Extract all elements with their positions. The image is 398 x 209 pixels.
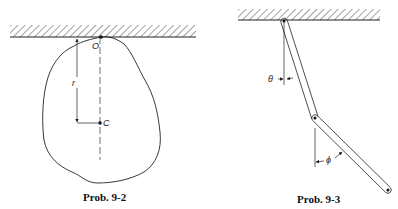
o-label: O <box>92 41 99 51</box>
ceiling-hatch <box>238 9 380 20</box>
center-c-point <box>98 121 102 125</box>
caption-prob-9-3: Prob. 9-3 <box>297 193 341 205</box>
diagram-canvas: r O C Prob. 9-2 θ <box>0 0 398 209</box>
ceiling-hatch <box>10 25 196 37</box>
upper-link <box>281 18 318 119</box>
phi-arrow-right <box>335 152 342 158</box>
phi-label: ϕ <box>326 155 331 165</box>
rigid-body-outline <box>43 37 161 183</box>
c-label: C <box>103 118 110 128</box>
theta-label: θ <box>268 74 273 84</box>
figure-prob-9-3: θ ϕ Prob. 9-3 <box>238 9 391 205</box>
phi-arrow-left <box>316 161 324 162</box>
figure-prob-9-2: r O C Prob. 9-2 <box>10 25 196 203</box>
lower-link <box>312 115 392 194</box>
pivot-o-point <box>99 35 103 39</box>
theta-arrow-right <box>287 78 293 79</box>
middle-joint-point <box>314 117 317 120</box>
caption-prob-9-2: Prob. 9-2 <box>83 191 127 203</box>
end-point <box>387 189 390 192</box>
